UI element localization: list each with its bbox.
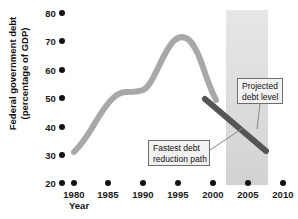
y-tick-label: 70 (36, 36, 56, 47)
y-axis-title-line1: Federal government debt (7, 4, 19, 144)
x-tick-label: 2010 (266, 189, 298, 200)
x-tick-label: 2000 (196, 189, 230, 200)
y-tick-label: 50 (36, 93, 56, 104)
y-tick-label: 60 (36, 65, 56, 76)
chart-figure: 80 70 60 50 40 30 20 1980 1985 1990 1995… (0, 0, 298, 219)
x-tick-label: 1985 (91, 189, 125, 200)
x-axis-title: Year (69, 200, 89, 211)
projected-debt-level-annotation: Projected debt level (237, 78, 283, 104)
projected-annotation-line2: debt level (242, 92, 279, 103)
y-tick-label: 80 (36, 8, 56, 19)
y-tick-label: 40 (36, 122, 56, 133)
x-tick-label: 1980 (57, 189, 91, 200)
fastest-reduction-annotation: Fastest debt reduction path (148, 140, 210, 166)
y-tick-label: 30 (36, 150, 56, 161)
fastest-annotation-line1: Fastest debt (153, 143, 206, 154)
y-axis-title-line2: (percentage of GDP) (18, 4, 30, 144)
x-tick-label: 1990 (126, 189, 160, 200)
y-tick-label: 20 (36, 178, 56, 189)
x-tick-label: 1995 (161, 189, 195, 200)
debt-line-series (74, 37, 216, 152)
x-tick-label: 2005 (231, 189, 265, 200)
fastest-annotation-line2: reduction path (153, 154, 206, 165)
projected-annotation-line1: Projected (242, 81, 279, 92)
y-axis-title: Federal government debt (percentage of G… (7, 4, 30, 144)
y-axis-tick-dots (59, 10, 65, 186)
